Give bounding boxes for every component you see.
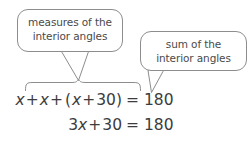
callout-measures-of-interior-angles: measures of the interior angles — [17, 9, 123, 52]
callout-sum-line-2: interior angles — [141, 51, 246, 65]
eq1-term-x3: x — [72, 91, 81, 109]
callout-sum-of-interior-angles: sum of the interior angles — [140, 31, 247, 71]
equation-2-left-side: 3x+30 — [0, 113, 122, 138]
eq1-term-x1: x — [16, 91, 25, 109]
equation-1-right-side: = 180 — [126, 88, 174, 113]
eq2-term-x: x — [78, 116, 87, 134]
eq1-op-plus3: + — [81, 91, 96, 109]
eq1-paren-close: ) — [116, 91, 122, 109]
callout-measures-line-1: measures of the — [18, 15, 122, 29]
eq2-term-30: 30 — [102, 116, 122, 134]
eq1-term-x2: x — [40, 91, 49, 109]
eq1-term-30: 30 — [96, 91, 116, 109]
equation-expanded: x+x+(x+30) = 180 — [0, 88, 252, 113]
eq1-op-plus2: + — [49, 91, 64, 109]
equation-list: x+x+(x+30) = 180 3x+30 = 180 — [0, 88, 252, 138]
measures-pointer-icon — [62, 52, 89, 81]
equation-simplified: 3x+30 = 180 — [0, 113, 252, 138]
eq2-coefficient-3: 3 — [68, 116, 78, 134]
math-diagram: measures of the interior angles sum of t… — [0, 0, 252, 143]
equation-1-left-side: x+x+(x+30) — [0, 88, 122, 113]
eq1-op-plus1: + — [25, 91, 40, 109]
callout-measures-line-2: interior angles — [18, 29, 122, 43]
eq2-op-plus: + — [87, 116, 102, 134]
eq1-paren-open: ( — [64, 91, 72, 109]
callout-sum-line-1: sum of the — [141, 37, 246, 51]
equation-2-right-side: = 180 — [126, 113, 174, 138]
